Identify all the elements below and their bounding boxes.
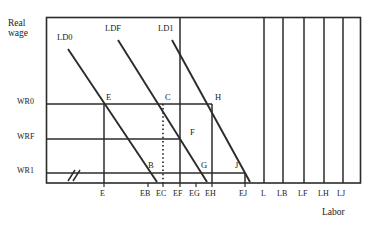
- x-axis-title: Labor: [322, 208, 345, 218]
- y-tick-label-wrf: WRF: [17, 133, 34, 141]
- point-label-j: J: [235, 161, 238, 170]
- x-tick-label-l: L: [261, 190, 266, 198]
- x-tick-label-lh: LH: [318, 190, 329, 198]
- point-label-c: C: [165, 93, 171, 102]
- point-label-e: E: [106, 93, 111, 102]
- x-tick-label-e: E: [100, 190, 105, 198]
- plot-frame: [47, 18, 361, 184]
- curve-label-ld0: LD0: [57, 33, 73, 42]
- x-tick-label-ef: EF: [173, 190, 182, 198]
- curve-LDF: [118, 40, 207, 182]
- curve-label-ldf: LDF: [105, 24, 121, 33]
- curve-LD0: [68, 49, 157, 182]
- x-tick-label-lj: LJ: [337, 190, 345, 198]
- point-label-b: B: [148, 161, 154, 170]
- y-axis-title: Real wage: [8, 19, 28, 39]
- x-tick-label-eg: EG: [189, 190, 200, 198]
- point-label-h: H: [215, 93, 221, 102]
- y-tick-label-wr0: WR0: [17, 98, 34, 106]
- point-label-g: G: [201, 161, 207, 170]
- x-tick-label-lf: LF: [298, 190, 307, 198]
- x-tick-label-eh: EH: [205, 190, 216, 198]
- labor-market-diagram: Real wage WR0 WRF WR1 E EB EC EF EG EH E…: [0, 0, 375, 227]
- x-tick-label-ec: EC: [156, 190, 166, 198]
- curve-label-ld1: LD1: [158, 24, 174, 33]
- y-axis-title-line2: wage: [8, 29, 28, 39]
- x-tick-label-eb: EB: [140, 190, 150, 198]
- x-tick-label-ej: EJ: [239, 190, 247, 198]
- point-label-f: F: [190, 128, 195, 137]
- x-tick-label-lb: LB: [277, 190, 287, 198]
- y-tick-label-wr1: WR1: [17, 167, 34, 175]
